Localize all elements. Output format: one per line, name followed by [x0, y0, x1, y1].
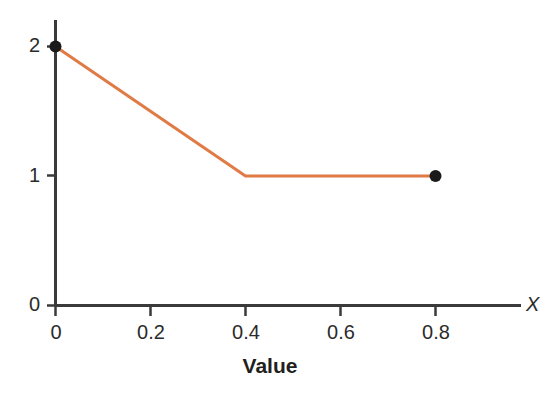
end-point — [430, 170, 442, 182]
y-tick-label-2: 2 — [0, 35, 40, 55]
y-tick-label-0: 0 — [0, 294, 40, 314]
data-series-line — [56, 47, 436, 177]
start-point — [50, 41, 62, 53]
x-tick-label-0.6: 0.6 — [311, 322, 371, 342]
data-point-markers — [50, 41, 442, 183]
x-axis-variable-name: X — [526, 294, 539, 314]
x-tick-label-0.4: 0.4 — [216, 322, 276, 342]
x-tick-label-0.8: 0.8 — [406, 322, 466, 342]
x-axis-title: Value — [170, 355, 370, 376]
x-tick-label-0: 0 — [26, 322, 86, 342]
y-tick-label-1: 1 — [0, 165, 40, 185]
x-tick-label-0.2: 0.2 — [121, 322, 181, 342]
chart-figure: 2 1 0 0 0.2 0.4 0.6 0.8 Value X — [0, 0, 557, 399]
